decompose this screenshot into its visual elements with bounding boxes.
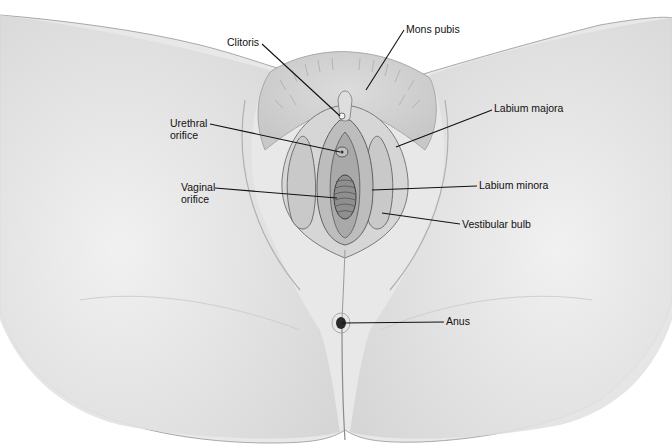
label-vestibular-bulb: Vestibular bulb: [462, 218, 531, 230]
label-vaginal-orifice: Vaginal orifice: [181, 181, 215, 205]
label-labium-majora: Labium majora: [494, 102, 563, 114]
illustration: [0, 0, 672, 445]
label-urethral-orifice: Urethral orifice: [170, 117, 207, 141]
label-clitoris: Clitoris: [227, 36, 259, 48]
label-labium-minora: Labium minora: [479, 179, 548, 191]
label-anus: Anus: [446, 315, 470, 327]
anatomy-figure: ClitorisMons pubisUrethral orificeLabium…: [0, 0, 672, 445]
label-mons-pubis: Mons pubis: [406, 23, 460, 35]
